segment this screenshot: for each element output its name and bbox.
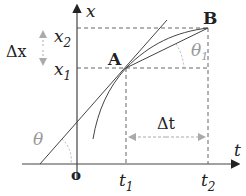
- point-b-label: B: [203, 8, 217, 28]
- theta1-arc: [176, 44, 184, 68]
- delta-x-label: Δx: [6, 42, 27, 61]
- theta-arc: [62, 139, 71, 164]
- theta1-label: θ1: [191, 40, 208, 63]
- theta-label: θ: [33, 129, 43, 149]
- point-a-label: A: [107, 49, 122, 69]
- x1-label: x1: [54, 59, 71, 83]
- x2-label: x2: [54, 26, 71, 50]
- y-axis-label: x: [86, 1, 96, 21]
- t2-label: t2: [201, 170, 215, 194]
- origin-label: o: [71, 166, 81, 184]
- t1-label: t1: [119, 170, 133, 194]
- delta-t-label: Δt: [157, 114, 176, 133]
- kinematics-diagram: x t o A B x2 x1 t1 t2 Δx Δt θ θ1: [0, 0, 246, 196]
- x-axis-label: t: [234, 140, 241, 160]
